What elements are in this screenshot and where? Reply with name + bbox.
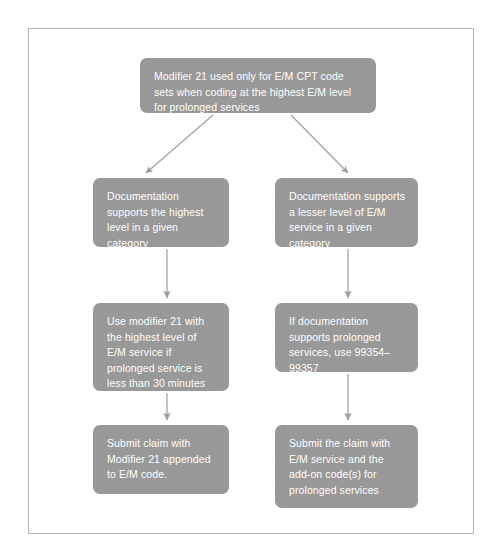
flow-node-right-2: If documentation supports prolonged serv… (275, 303, 418, 372)
flow-node-right-3: Submit the claim with E/M service and th… (275, 425, 418, 508)
flow-node-left-2-label: Use modifier 21 with the highest level o… (107, 314, 216, 391)
flow-node-right-1-label: Documentation supports a lesser level of… (289, 189, 405, 247)
flow-node-root: Modifier 21 used only for E/M CPT code s… (140, 58, 376, 113)
flow-node-left-1: Documentation supports the highest level… (93, 178, 229, 247)
flow-node-right-3-label: Submit the claim with E/M service and th… (289, 436, 405, 498)
flow-node-right-1: Documentation supports a lesser level of… (275, 178, 418, 247)
flow-node-root-label: Modifier 21 used only for E/M CPT code s… (154, 69, 363, 113)
flow-node-left-1-label: Documentation supports the highest level… (107, 189, 216, 247)
flow-node-right-2-label: If documentation supports prolonged serv… (289, 314, 405, 372)
flow-node-left-2: Use modifier 21 with the highest level o… (93, 303, 229, 391)
flow-node-left-3: Submit claim with Modifier 21 appended t… (93, 425, 229, 494)
flow-node-left-3-label: Submit claim with Modifier 21 appended t… (107, 436, 216, 483)
flowchart-diagram: Modifier 21 used only for E/M CPT code s… (0, 0, 502, 559)
